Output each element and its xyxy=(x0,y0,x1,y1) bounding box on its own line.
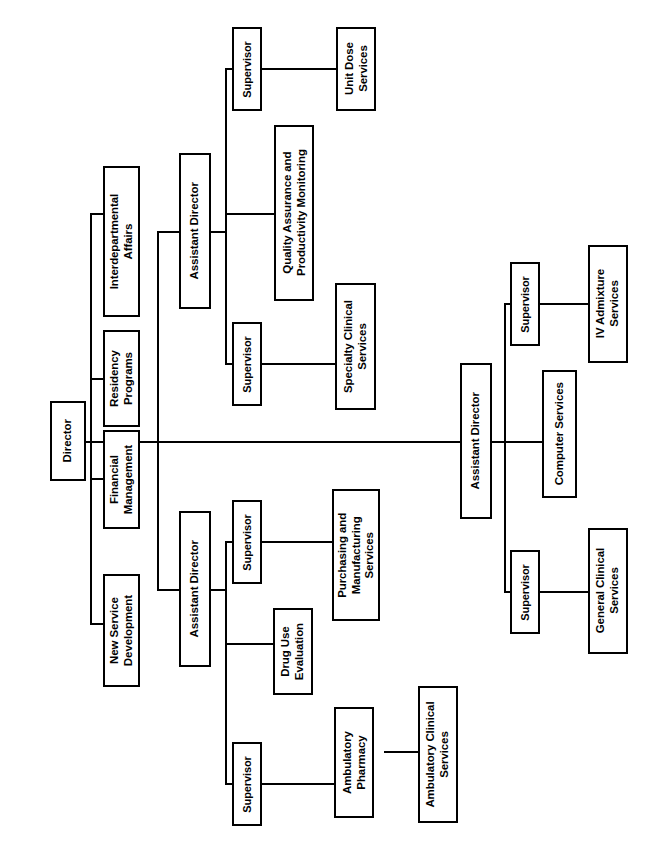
node-supervisor-1[interactable]: Supervisor xyxy=(232,27,262,111)
node-interdepartmental-affairs[interactable]: Interdepartmental Affairs xyxy=(103,166,140,317)
node-interdepartmental-affairs-label: Interdepartmental Affairs xyxy=(108,194,135,289)
node-assistant-director-3-label: Assistant Director xyxy=(469,392,483,489)
node-supervisor-2-label: Supervisor xyxy=(241,336,254,392)
node-ambulatory-pharmacy[interactable]: Ambulatory Pharmacy xyxy=(334,707,374,818)
node-unit-dose-services-label: Unit Dose Services xyxy=(342,43,369,96)
node-drug-use-evaluation[interactable]: Drug Use Evaluation xyxy=(273,608,313,695)
node-ambulatory-clinical-services-label: Ambulatory Clinical Services xyxy=(424,701,451,807)
connector-staff-stub-1 xyxy=(90,213,104,215)
connector-sup6-genclin xyxy=(540,591,588,593)
connector-ad2-drugeval xyxy=(225,643,273,645)
connector-ad1-stub xyxy=(157,231,179,233)
connector-sup2-specialty xyxy=(262,363,336,365)
node-assistant-director-2-label: Assistant Director xyxy=(188,540,202,637)
connector-main-trunk xyxy=(157,441,464,443)
connector-staff-spine xyxy=(90,213,92,625)
node-director-label: Director xyxy=(61,419,75,462)
connector-sup5-ivadmix xyxy=(540,303,588,305)
node-supervisor-6[interactable]: Supervisor xyxy=(510,550,540,634)
node-supervisor-5-label: Supervisor xyxy=(519,276,532,332)
node-director[interactable]: Director xyxy=(50,401,86,481)
node-general-clinical-services[interactable]: General Clinical Services xyxy=(588,528,628,654)
node-residency-programs[interactable]: Residency Programs xyxy=(103,330,140,427)
node-supervisor-4-label: Supervisor xyxy=(241,756,254,812)
node-assistant-director-2[interactable]: Assistant Director xyxy=(179,511,211,667)
node-supervisor-4[interactable]: Supervisor xyxy=(232,742,262,826)
node-new-service-development[interactable]: New Service Development xyxy=(103,574,140,687)
node-financial-management-label: Financial Management xyxy=(108,445,135,514)
connector-sup1-unitdose xyxy=(262,68,336,70)
org-chart: Director Interdepartmental Affairs Resid… xyxy=(0,0,670,861)
node-iv-admixture-services[interactable]: IV Admixture Services xyxy=(588,245,628,363)
node-specialty-clinical-services[interactable]: Specialty Clinical Services xyxy=(335,283,376,410)
connector-sup3-purchasing xyxy=(262,541,332,543)
connector-ad1-children-spine xyxy=(225,68,227,365)
node-residency-programs-label: Residency Programs xyxy=(108,350,135,407)
node-ambulatory-pharmacy-label: Ambulatory Pharmacy xyxy=(340,731,367,794)
node-new-service-development-label: New Service Development xyxy=(108,595,135,666)
node-assistant-director-1-label: Assistant Director xyxy=(188,182,202,279)
node-supervisor-5[interactable]: Supervisor xyxy=(510,262,540,346)
connector-ambpharm-ambclin xyxy=(384,751,418,753)
node-specialty-clinical-services-label: Specialty Clinical Services xyxy=(342,300,369,393)
node-unit-dose-services[interactable]: Unit Dose Services xyxy=(336,27,376,111)
node-assistant-director-1[interactable]: Assistant Director xyxy=(179,153,211,309)
connector-ad2-stub xyxy=(157,589,179,591)
node-drug-use-evaluation-label: Drug Use Evaluation xyxy=(279,623,306,680)
node-quality-assurance[interactable]: Quality Assurance and Productivity Monit… xyxy=(274,125,314,301)
node-computer-services[interactable]: Computer Services xyxy=(542,370,577,498)
node-iv-admixture-services-label: IV Admixture Services xyxy=(594,269,621,338)
connector-ad2-children-spine xyxy=(225,541,227,785)
connector-staff-stub-4 xyxy=(90,623,104,625)
node-supervisor-6-label: Supervisor xyxy=(519,564,532,620)
node-purchasing-manufacturing[interactable]: Purchasing and Manufacturing Services xyxy=(332,489,380,621)
connector-staff-stub-3 xyxy=(90,478,104,480)
connector-ad-spine xyxy=(157,231,159,591)
connector-ad3-computer xyxy=(504,441,542,443)
node-supervisor-2[interactable]: Supervisor xyxy=(232,322,262,406)
node-supervisor-1-label: Supervisor xyxy=(241,41,254,97)
node-supervisor-3-label: Supervisor xyxy=(241,514,254,570)
node-purchasing-manufacturing-label: Purchasing and Manufacturing Services xyxy=(336,513,377,598)
connector-sup4-ambpharm xyxy=(262,783,334,785)
node-general-clinical-services-label: General Clinical Services xyxy=(594,548,621,633)
connector-ad3-children-spine xyxy=(504,303,506,593)
connector-ad1-qa xyxy=(225,213,275,215)
connector-staff-stub-2 xyxy=(90,378,104,380)
node-assistant-director-3[interactable]: Assistant Director xyxy=(460,363,492,519)
node-quality-assurance-label: Quality Assurance and Productivity Monit… xyxy=(280,150,307,277)
node-financial-management[interactable]: Financial Management xyxy=(103,430,140,529)
node-ambulatory-clinical-services[interactable]: Ambulatory Clinical Services xyxy=(418,686,458,823)
node-computer-services-label: Computer Services xyxy=(553,382,567,485)
node-supervisor-3[interactable]: Supervisor xyxy=(232,500,262,584)
